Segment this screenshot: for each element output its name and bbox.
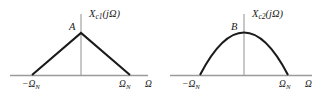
function-label-right-argument: (jΩ) bbox=[266, 8, 284, 19]
tick-label-left-negative-subscript: N bbox=[35, 83, 40, 90]
function-label-right-subscript: c2 bbox=[258, 12, 265, 21]
spectrum-plot-left: Xc1(jΩ) A −ΩN ΩN Ω bbox=[0, 0, 161, 101]
figure-container: Xc1(jΩ) A −ΩN ΩN Ω Xc2(jΩ) B −ΩN ΩN Ω bbox=[0, 0, 323, 101]
tick-label-left-positive-subscript: N bbox=[126, 83, 131, 90]
tick-label-right-positive-subscript: N bbox=[286, 83, 291, 90]
tick-label-left-positive: ΩN bbox=[119, 80, 130, 91]
tick-label-right-negative: −ΩN bbox=[182, 80, 200, 91]
axis-label-left: Ω bbox=[145, 80, 152, 90]
tick-label-left-negative-symbol: −Ω bbox=[22, 79, 35, 89]
axis-label-right: Ω bbox=[305, 80, 312, 90]
tick-label-left-positive-symbol: Ω bbox=[119, 79, 126, 89]
peak-label-right: B bbox=[231, 22, 237, 33]
peak-label-left: A bbox=[69, 22, 75, 33]
tick-label-left-negative: −ΩN bbox=[22, 80, 40, 91]
spectrum-plot-right: Xc2(jΩ) B −ΩN ΩN Ω bbox=[162, 0, 323, 101]
function-label-left-argument: (jΩ) bbox=[103, 8, 121, 19]
tick-label-right-negative-symbol: −Ω bbox=[182, 79, 195, 89]
tick-label-right-positive-symbol: Ω bbox=[279, 79, 286, 89]
function-label-left: Xc1(jΩ) bbox=[89, 9, 120, 21]
function-label-left-subscript: c1 bbox=[95, 12, 102, 21]
tick-label-right-negative-subscript: N bbox=[195, 83, 200, 90]
tick-label-right-positive: ΩN bbox=[279, 80, 290, 91]
function-label-right: Xc2(jΩ) bbox=[252, 9, 283, 21]
